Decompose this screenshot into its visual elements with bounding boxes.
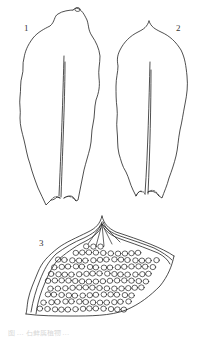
- leaf-2-costa: [145, 62, 151, 194]
- botanical-figure: 1 2 3 图 … 石藓属植物 …: [0, 0, 207, 340]
- panel-label-3: 3: [39, 239, 44, 248]
- leaf-2-outline: [116, 21, 187, 198]
- leaf-1-costa: [59, 56, 65, 197]
- panel-label-1: 1: [24, 24, 29, 33]
- leaf-apex-cell-network: [88, 224, 120, 246]
- figure-caption: 图 … 石藓属植物 …: [8, 330, 203, 337]
- panel-label-2: 2: [176, 24, 181, 33]
- figure-drawing: [0, 0, 207, 340]
